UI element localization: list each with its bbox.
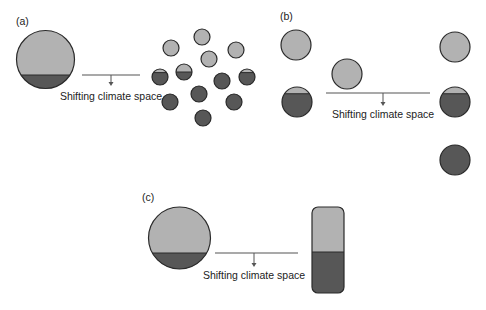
- panel-b-left-circles: [281, 30, 312, 117]
- panel-a-source-circle: [17, 31, 75, 89]
- small-population-circle: [191, 85, 207, 102]
- panel-c-label: (c): [142, 191, 154, 203]
- panel-b: (b) Shifting climate space: [280, 10, 470, 175]
- population-circle: [440, 32, 470, 62]
- panel-a-shift-arrow: [82, 75, 140, 86]
- small-population-circle: [239, 69, 255, 85]
- population-circle: [440, 144, 470, 175]
- arrow-down-icon: [252, 263, 257, 267]
- panel-c-shift-arrow: [215, 253, 298, 267]
- panel-a-caption: Shifting climate space: [60, 90, 162, 102]
- panel-c-caption: Shifting climate space: [203, 269, 305, 281]
- small-population-circle: [152, 69, 168, 85]
- panel-a-large-circle: [17, 31, 75, 89]
- population-circle: [281, 30, 311, 60]
- panel-c-source-circle: [149, 207, 211, 269]
- small-population-circle: [163, 40, 179, 56]
- panel-a: (a) Shifting climate space: [16, 15, 255, 126]
- panel-c-large-circle: [149, 207, 211, 269]
- panel-b-middle-circle: [332, 59, 362, 89]
- arrow-down-icon: [381, 102, 386, 106]
- small-population-circle: [214, 72, 230, 89]
- small-population-circle: [195, 109, 211, 126]
- arrow-down-icon: [109, 82, 114, 86]
- panel-b-shift-arrow: [326, 93, 430, 106]
- small-population-circle: [228, 42, 244, 58]
- small-population-circle: [201, 51, 217, 67]
- small-population-circle: [176, 64, 192, 80]
- population-circle: [282, 87, 312, 117]
- panel-b-right-circles: [440, 32, 470, 175]
- small-population-circle: [162, 93, 178, 110]
- panel-a-label: (a): [16, 15, 29, 27]
- population-circle: [440, 87, 470, 117]
- panel-b-caption: Shifting climate space: [332, 108, 434, 120]
- population-circle: [332, 59, 362, 89]
- small-population-circle: [194, 29, 210, 45]
- panel-a-fragmented-circles: [152, 29, 255, 126]
- small-population-circle: [226, 93, 242, 110]
- panel-c-elongated-range-bar: [312, 207, 344, 293]
- panel-c: (c) Shifting climate space: [142, 191, 344, 293]
- climate-space-diagram: (a) Shifting climate space (b) Shifting …: [0, 0, 486, 310]
- panel-b-label: (b): [280, 10, 293, 22]
